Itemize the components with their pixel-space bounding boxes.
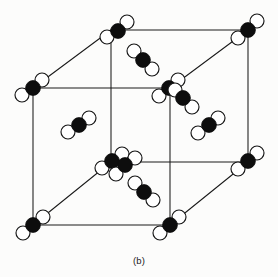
dark-atom-circle — [241, 154, 256, 169]
dark-atom-circle — [105, 154, 120, 169]
dark-atom-circle — [111, 24, 126, 39]
dark-atom-circle — [137, 185, 152, 200]
unit-cell-drawing — [0, 0, 278, 277]
dark-atom-circle — [163, 218, 178, 233]
figure-caption: (b) — [0, 255, 278, 266]
molecule — [191, 111, 225, 140]
molecule — [61, 111, 96, 139]
dark-atom-circle — [136, 53, 151, 68]
dark-atom-circle — [26, 218, 41, 233]
molecule — [168, 83, 199, 114]
molecule — [127, 44, 159, 76]
dark-atom-circle — [241, 23, 256, 38]
dark-atom-circle — [118, 158, 133, 173]
molecule — [128, 176, 160, 207]
dark-atom-circle — [26, 81, 41, 96]
crystal-structure-figure: (b) — [0, 0, 278, 277]
dark-atom-circle — [176, 91, 191, 106]
molecule-layer — [15, 14, 264, 240]
dark-atom-circle — [72, 118, 87, 133]
dark-atom-circle — [202, 118, 217, 133]
